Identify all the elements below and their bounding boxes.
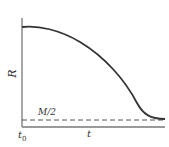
reference-label: M/2 — [38, 107, 56, 117]
r-curve — [22, 27, 165, 119]
y-axis-label: R — [6, 69, 19, 77]
x-origin-label: t0 — [18, 129, 27, 143]
chart — [0, 0, 169, 147]
x-origin-sub: 0 — [22, 135, 26, 143]
x-axis-label: t — [87, 128, 91, 139]
